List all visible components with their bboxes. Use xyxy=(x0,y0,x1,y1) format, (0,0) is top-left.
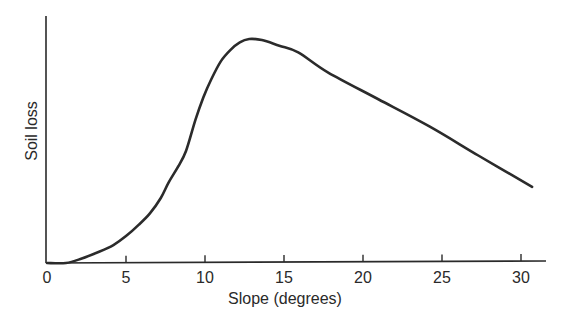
soil-loss-curve xyxy=(47,39,532,263)
x-tick-label: 30 xyxy=(512,269,530,286)
x-tick-label: 25 xyxy=(433,269,451,286)
x-tick-label: 10 xyxy=(196,269,214,286)
y-axis-label: Soil loss xyxy=(23,101,40,161)
x-ticks: 051015202530 xyxy=(43,254,530,286)
x-tick-label: 20 xyxy=(354,269,372,286)
x-axis xyxy=(46,261,546,263)
soil-loss-chart: 051015202530 Slope (degrees) Soil loss xyxy=(0,0,568,323)
x-tick-label: 15 xyxy=(275,269,293,286)
x-axis-label: Slope (degrees) xyxy=(228,290,342,307)
x-tick-label: 5 xyxy=(122,269,131,286)
plot-area: 051015202530 xyxy=(43,16,546,286)
x-tick-label: 0 xyxy=(43,269,52,286)
